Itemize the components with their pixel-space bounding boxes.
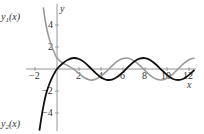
y1-curve-label: y1(x) bbox=[0, 11, 21, 24]
chart-canvas: −2 2 4 6 8 10 12 4 2 −2 −4 y x y1(x) y2(… bbox=[0, 0, 204, 134]
y2-curve-label: y2(x) bbox=[0, 118, 21, 131]
x-axis-label: x bbox=[186, 79, 192, 90]
y-tick-label: 4 bbox=[48, 19, 53, 30]
x-tick-label: −2 bbox=[29, 70, 40, 81]
y-axis-label: y bbox=[59, 3, 65, 14]
